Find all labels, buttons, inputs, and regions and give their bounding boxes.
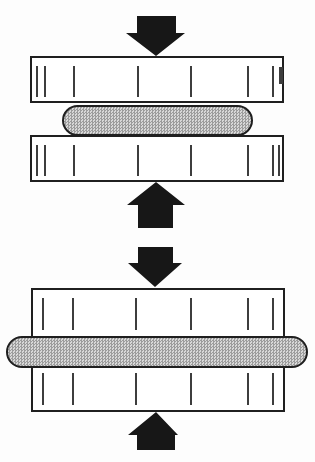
compression-diagram bbox=[0, 0, 315, 462]
tick-mark bbox=[72, 373, 74, 405]
tick-mark bbox=[247, 373, 249, 405]
tick-mark bbox=[272, 373, 274, 405]
arrow-up-icon bbox=[128, 412, 178, 450]
arrow-down-icon bbox=[128, 247, 182, 287]
tick-mark bbox=[42, 373, 44, 405]
tick-mark bbox=[190, 373, 192, 405]
specimen-flattened-bar bbox=[6, 336, 308, 368]
tick-mark bbox=[135, 373, 137, 405]
stage-final-compression bbox=[0, 0, 315, 462]
